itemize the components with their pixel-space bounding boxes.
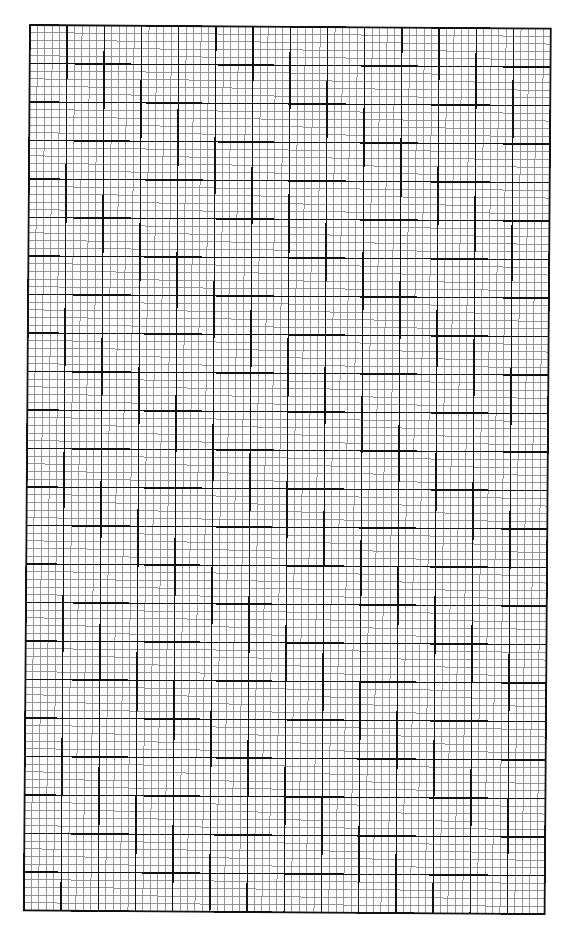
minor-vertical-line	[121, 26, 127, 911]
minor-vertical-line	[530, 29, 536, 914]
minor-vertical-line	[418, 28, 424, 913]
minor-vertical-line	[187, 26, 193, 911]
minor-vertical-line	[448, 28, 454, 913]
minor-vertical-line	[299, 27, 305, 912]
minor-vertical-line	[455, 28, 461, 913]
grid-canvas	[0, 0, 585, 950]
minor-vertical-line	[381, 27, 387, 912]
minor-vertical-line	[522, 28, 528, 913]
minor-vertical-line	[202, 26, 208, 911]
major-grid-lines	[24, 25, 551, 914]
minor-vertical-line	[485, 28, 491, 913]
minor-vertical-line	[83, 25, 89, 910]
grid	[24, 25, 551, 914]
major-vertical-line	[210, 26, 216, 911]
minor-vertical-line	[143, 26, 149, 911]
minor-vertical-line	[150, 26, 156, 911]
minor-vertical-line	[76, 25, 82, 910]
minor-vertical-line	[46, 25, 52, 910]
major-vertical-line	[247, 27, 253, 912]
minor-vertical-line	[292, 27, 298, 912]
minor-vertical-line	[31, 25, 37, 910]
minor-vertical-line	[277, 27, 283, 912]
minor-vertical-line	[180, 26, 186, 911]
minor-vertical-line	[403, 28, 409, 913]
minor-vertical-line	[269, 27, 275, 912]
minor-vertical-line	[537, 29, 543, 914]
major-vertical-line	[321, 27, 327, 912]
minor-vertical-line	[307, 27, 313, 912]
minor-vertical-line	[478, 28, 484, 913]
major-vertical-line	[173, 26, 179, 911]
minor-vertical-line	[336, 27, 342, 912]
minor-vertical-line	[254, 27, 260, 912]
minor-vertical-line	[515, 28, 521, 913]
minor-vertical-line	[329, 27, 335, 912]
major-vertical-line	[433, 28, 439, 913]
minor-vertical-line	[232, 26, 238, 911]
minor-vertical-line	[262, 27, 268, 912]
major-vertical-line	[359, 27, 365, 912]
minor-vertical-line	[366, 27, 372, 912]
major-vertical-line	[507, 28, 513, 913]
minor-vertical-line	[426, 28, 432, 913]
major-vertical-line	[284, 27, 290, 912]
minor-vertical-line	[411, 28, 417, 913]
major-vertical-line	[135, 26, 141, 911]
major-vertical-line	[470, 28, 476, 913]
major-vertical-line	[396, 28, 402, 913]
minor-vertical-line	[158, 26, 164, 911]
minor-vertical-line	[373, 27, 379, 912]
minor-vertical-line	[314, 27, 320, 912]
major-vertical-line	[61, 25, 67, 910]
minor-vertical-line	[463, 28, 469, 913]
minor-vertical-line	[128, 26, 134, 911]
major-vertical-line	[98, 26, 104, 911]
minor-vertical-line	[493, 28, 499, 913]
minor-vertical-line	[68, 25, 74, 910]
minor-vertical-line	[54, 25, 60, 910]
minor-vertical-line	[440, 28, 446, 913]
minor-vertical-line	[91, 25, 97, 910]
minor-vertical-line	[344, 27, 350, 912]
minor-vertical-line	[165, 26, 171, 911]
minor-vertical-line	[351, 27, 357, 912]
minor-vertical-line	[39, 25, 45, 910]
minor-vertical-line	[225, 26, 231, 911]
minor-vertical-line	[240, 27, 246, 912]
minor-vertical-line	[217, 26, 223, 911]
minor-vertical-line	[500, 28, 506, 913]
minor-vertical-line	[106, 26, 112, 911]
minor-vertical-line	[388, 28, 394, 913]
minor-vertical-line	[113, 26, 119, 911]
minor-vertical-line	[195, 26, 201, 911]
